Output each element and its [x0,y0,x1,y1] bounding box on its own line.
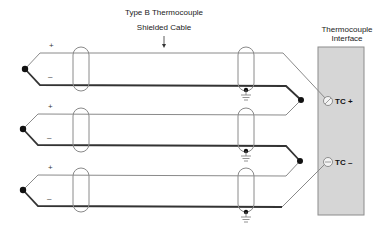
tc3-negative-wire [23,190,282,207]
tc3-positive-wire [23,175,286,190]
tc2-positive-wire [23,114,286,129]
tc3-minus-sign: – [47,195,51,203]
tc-minus-terminal [324,158,333,167]
interface-title-line2: Interface [310,34,384,43]
thermocouple-2 [20,108,300,161]
thermocouple-1 [22,47,326,100]
tc2-hot-junction [20,126,26,132]
diagram-title: Type B Thermocouple [114,8,214,17]
tc1-minus-sign: – [48,73,52,81]
thermocouple-3 [20,164,325,222]
tc3-hot-junction [20,187,26,193]
tc1-positive-wire [25,53,326,99]
tc1-plus-sign: + [49,42,54,50]
cable-label: Shielded Cable [114,23,214,32]
tc1-ground-icon [241,90,251,100]
series-link-2-3 [286,161,300,176]
tc2-minus-sign: – [47,134,51,142]
tc3-plus-sign: + [48,164,53,172]
tc2-plus-sign: + [48,103,53,111]
series-junction-1 [298,97,304,103]
tc1-negative-wire [25,69,301,100]
tc2-negative-wire [23,129,300,161]
tc-plus-terminal [324,97,333,106]
tc1-hot-junction [22,66,28,72]
cable-arrow-head [162,44,166,48]
tc-minus-label: TC – [335,158,352,167]
interface-panel [318,47,364,215]
interface-title-line1: Thermocouple [310,25,384,34]
tc-plus-label: TC + [335,97,353,106]
series-junction-2 [297,158,303,164]
thermocouple-wiring-diagram: Type B Thermocouple Shielded Cable Therm… [0,0,384,233]
series-link-1-2 [286,100,301,115]
tc3-shield-right [238,168,254,212]
tc1-shield-right [238,47,254,91]
tc2-ground-icon [241,151,251,161]
tc3-ground-icon [241,212,251,222]
